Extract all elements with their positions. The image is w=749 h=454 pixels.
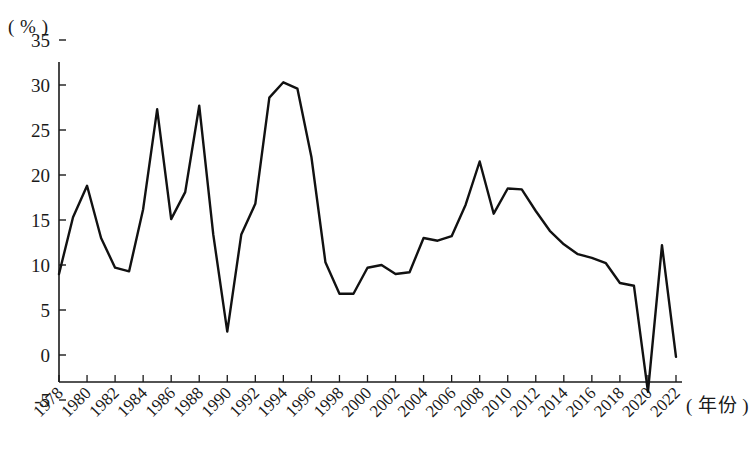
y-axis-tick-label: 5 bbox=[41, 300, 51, 321]
y-axis-tick-label: 25 bbox=[31, 120, 50, 141]
x-axis-tick-label: 1988 bbox=[170, 383, 207, 420]
x-axis-tick-label: 2006 bbox=[422, 383, 459, 420]
y-axis-tick-label: 15 bbox=[31, 210, 50, 231]
x-axis-tick-label: 2022 bbox=[646, 383, 683, 420]
x-axis-tick-label: 1990 bbox=[198, 383, 235, 420]
y-axis-tick-label: 30 bbox=[31, 75, 50, 96]
x-axis-tick-label: 2000 bbox=[338, 383, 375, 420]
x-axis-title: ( 年份 ) bbox=[686, 390, 749, 417]
x-axis-tick-label: 1982 bbox=[85, 383, 122, 420]
x-axis-tick-label: 2020 bbox=[618, 383, 655, 420]
y-axis-tick-label: 35 bbox=[31, 30, 50, 51]
x-axis-tick-label: 2008 bbox=[450, 383, 487, 420]
y-axis: 35302520151050-5 bbox=[31, 30, 66, 411]
y-axis-tick-label: 10 bbox=[31, 255, 50, 276]
x-axis-tick-label: 2002 bbox=[366, 383, 403, 420]
data-series-group bbox=[59, 82, 676, 392]
x-axis-tick-label: 2018 bbox=[590, 383, 627, 420]
x-axis-tick-label: 1996 bbox=[282, 383, 319, 420]
x-axis-tick-label: 2016 bbox=[562, 383, 599, 420]
x-axis: 1978198019821984198619881990199219941996… bbox=[29, 375, 683, 421]
x-axis-tick-label: 1998 bbox=[310, 383, 347, 420]
x-axis-tick-label: 1980 bbox=[57, 383, 94, 420]
y-axis-tick-label: 20 bbox=[31, 165, 50, 186]
x-axis-tick-label: 1986 bbox=[142, 383, 179, 420]
x-axis-tick-label: 1992 bbox=[226, 383, 263, 420]
data-line-年增长率 bbox=[59, 82, 676, 392]
x-axis-tick-label: 2012 bbox=[506, 383, 543, 420]
y-axis-tick-label: 0 bbox=[41, 345, 51, 366]
x-axis-tick-label: 2010 bbox=[478, 383, 515, 420]
